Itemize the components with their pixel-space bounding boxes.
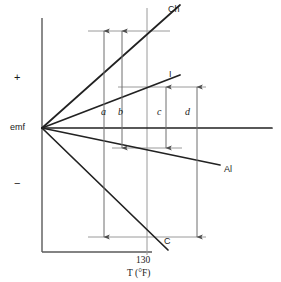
measurement-label-a: a bbox=[101, 107, 106, 117]
curve-label-alumel: Al bbox=[224, 165, 232, 174]
y-axis-negative-sign: − bbox=[14, 178, 20, 189]
y-axis-positive-sign: + bbox=[14, 72, 20, 83]
x-axis-tick-130: 130 bbox=[136, 256, 150, 266]
x-axis-title: T (°F) bbox=[127, 269, 150, 279]
measurement-arrows bbox=[104, 31, 197, 237]
measurement-label-c: c bbox=[157, 107, 161, 117]
measurement-label-b: b bbox=[118, 107, 123, 117]
curve-label-chromel: Ch bbox=[168, 5, 180, 14]
curve-alumel bbox=[42, 128, 220, 165]
curve-constantan bbox=[42, 128, 168, 250]
curve-lines bbox=[42, 5, 272, 250]
curve-label-constantan: C bbox=[164, 237, 171, 246]
curve-iron bbox=[42, 75, 180, 128]
emf-temperature-diagram: emf + − 130 T (°F) Ch I Al C a b c d bbox=[0, 0, 281, 282]
measurement-label-d: d bbox=[185, 107, 190, 117]
curve-label-iron: I bbox=[169, 70, 172, 79]
y-axis-label-emf: emf bbox=[10, 123, 25, 132]
axis-frame bbox=[42, 18, 152, 252]
diagram-canvas bbox=[0, 0, 281, 282]
